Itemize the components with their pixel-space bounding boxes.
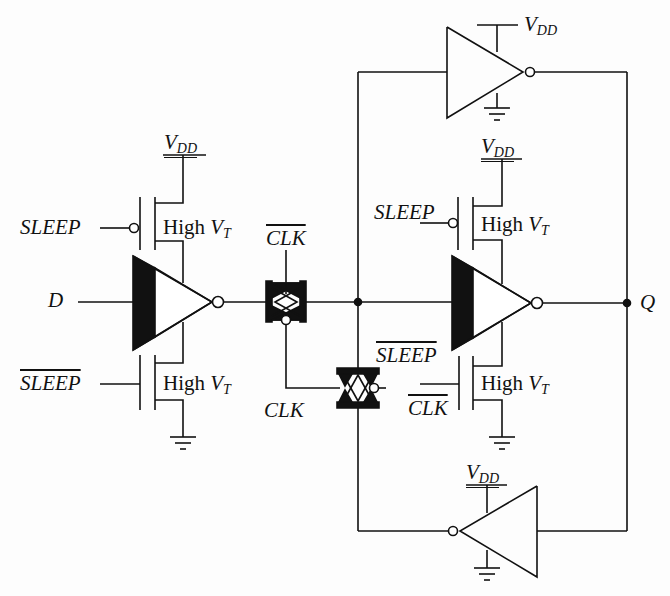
top-keeper-inverter [447,25,627,120]
transmission-gate-2 [337,368,386,408]
label-sleep-bar-right: SLEEP [376,345,437,366]
label-sleep-left: SLEEP [20,217,81,238]
label-highvt-nmos-right: High VT [481,373,549,397]
label-vdd-right: VDD [481,136,514,162]
label-clk-bar-right: CLK [408,398,448,419]
label-q: Q [640,292,655,313]
label-vdd-bottom: VDD [466,462,499,488]
label-highvt-pmos-left: High VT [163,217,231,241]
label-sleep-bar-left: SLEEP [20,373,81,394]
circuit-diagram: D Q SLEEP SLEEP SLEEP SLEEP CLK CLK CLK … [0,0,670,596]
label-clk: CLK [264,400,304,421]
label-vdd-left: VDD [164,132,197,158]
label-highvt-nmos-left: High VT [163,373,231,397]
input-inverter [133,256,266,350]
inverter-bubble [213,297,224,308]
schematic-lines [0,0,670,596]
label-vdd-top: VDD [524,14,557,38]
label-d: D [48,290,63,311]
label-clk-bar-tg1: CLK [266,228,306,249]
bottom-keeper-inverter [449,485,628,580]
storage-inverter [452,256,627,350]
label-highvt-pmos-right: High VT [481,214,549,238]
label-sleep-right: SLEEP [374,202,435,223]
